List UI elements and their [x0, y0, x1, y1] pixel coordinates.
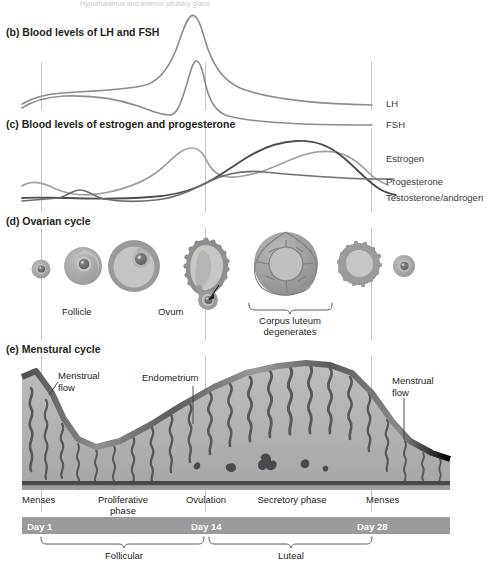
primary-follicle-icon — [64, 247, 102, 285]
endometrium-illustration: Menstrual flow Endometrium Menstrual flo… — [22, 362, 450, 490]
top-partial-caption: Hypothalamus and anterior pituitary glan… — [80, 0, 210, 8]
testosterone-series-label: Testosterone/androgen — [386, 192, 483, 203]
day-1-label: Day 1 — [27, 521, 53, 532]
panel-d-title: (d) Ovarian cycle — [6, 215, 91, 227]
primordial-follicle-icon — [32, 260, 51, 279]
luteal-brace — [209, 537, 372, 548]
ovulation-label: Ovulation — [186, 494, 226, 505]
ovulating-follicle-icon — [183, 237, 229, 310]
basal-layer — [22, 481, 450, 486]
secondary-follicle-icon — [108, 240, 160, 292]
phase-labels: Menses Proliferative phase Ovulation Sec… — [22, 494, 400, 516]
menses-right-label: Menses — [366, 494, 400, 505]
follicular-brace — [41, 537, 204, 548]
menstrual-flow-right-label-line2: flow — [392, 387, 409, 398]
proliferative-phase-label-line2: phase — [110, 505, 136, 516]
follicular-label: Follicular — [105, 550, 143, 561]
panel-c-title: (c) Blood levels of estrogen and progest… — [6, 118, 235, 130]
cycle-phase-braces: Follicular Luteal — [41, 537, 372, 561]
follicle-label: Follicle — [62, 306, 92, 317]
testosterone-curve — [22, 171, 394, 201]
secretory-phase-label: Secretory phase — [257, 494, 326, 505]
luteal-label: Luteal — [278, 550, 304, 561]
menses-left-label: Menses — [22, 494, 56, 505]
corpus-albicans-icon — [337, 241, 382, 287]
endometrium-label: Endometrium — [142, 372, 199, 383]
proliferative-phase-label-line1: Proliferative — [98, 494, 148, 505]
menstrual-flow-left-label-line1: Menstrual — [58, 370, 100, 381]
myometrium — [22, 486, 450, 490]
corpus-luteum-label-line1: Corpus luteum — [259, 315, 321, 326]
corpus-luteum-label-line2: degenerates — [264, 326, 317, 337]
menstrual-cycle-figure: Hypothalamus and anterior pituitary glan… — [0, 0, 500, 562]
day-28-label: Day 28 — [357, 521, 388, 532]
progesterone-series-label: Progesterone — [386, 176, 443, 187]
lh-series-label: LH — [386, 98, 398, 109]
corpus-luteum-brace — [249, 303, 332, 314]
fsh-series-label: FSH — [386, 119, 405, 130]
ovum-label: Ovum — [158, 306, 183, 317]
menstrual-flow-left-label-line2: flow — [58, 382, 75, 393]
panel-c-chart: Estrogen Progesterone Testosterone/andro… — [22, 141, 483, 203]
estrogen-series-label: Estrogen — [386, 153, 424, 164]
new-primordial-follicle-icon — [393, 255, 415, 277]
day-14-label: Day 14 — [191, 521, 222, 532]
panel-e-title: (e) Menstural cycle — [6, 343, 101, 355]
ovarian-cycle-illustrations: Follicle Ovum Corpus luteum degenerates — [32, 232, 416, 337]
day-timeline-bar: Day 1 Day 14 Day 28 — [22, 517, 450, 534]
corpus-luteum-icon — [254, 232, 318, 296]
menstrual-flow-right-label-line1: Menstrual — [392, 375, 434, 386]
panel-b-title: (b) Blood levels of LH and FSH — [6, 26, 159, 38]
